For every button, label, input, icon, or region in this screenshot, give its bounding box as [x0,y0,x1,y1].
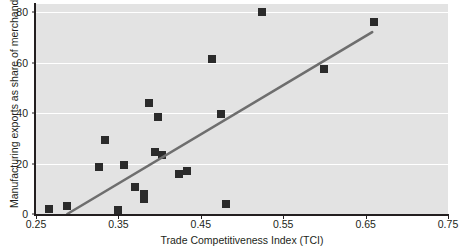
data-point [217,110,225,118]
x-tick-mark-0-55 [283,216,284,219]
gridline-y-80 [36,12,448,13]
x-tick-label-0-65: 0.65 [355,218,375,230]
data-point [95,163,103,171]
x-tick-mark-0-45 [201,216,202,219]
data-point [140,195,148,203]
data-point [222,200,230,208]
data-point [154,113,162,121]
scatter-chart-figure: 0204060800.250.350.450.550.650.75 Manufa… [0,0,469,252]
x-tick-mark-0-35 [118,216,119,219]
x-tick-label-0-25: 0.25 [26,218,46,230]
data-point [320,65,328,73]
data-point [145,99,153,107]
y-axis-title: Manufacturing exports as share of mercha… [8,0,20,208]
data-point [370,18,378,26]
data-point [101,136,109,144]
x-axis-line [35,214,449,216]
x-tick-label-0-35: 0.35 [108,218,128,230]
data-point [45,205,53,213]
data-point [131,183,139,191]
x-tick-mark-0-75 [448,216,449,219]
x-tick-label-0-45: 0.45 [191,218,211,230]
y-axis-line [34,3,36,216]
data-point [208,55,216,63]
x-tick-mark-0-25 [36,216,37,219]
gridline-y-40 [36,113,448,114]
y-tick-label-0: 0 [0,208,28,220]
data-point [120,161,128,169]
data-point [158,151,166,159]
x-tick-label-0-55: 0.55 [273,218,293,230]
gridline-y-60 [36,63,448,64]
data-point [114,206,122,214]
data-point [63,202,71,210]
x-axis-title: Trade Competitiveness Index (TCI) [36,234,448,246]
data-point [258,8,266,16]
data-point [183,167,191,175]
x-tick-label-0-75: 0.75 [438,218,458,230]
plot-panel [36,4,448,215]
x-tick-mark-0-65 [366,216,367,219]
